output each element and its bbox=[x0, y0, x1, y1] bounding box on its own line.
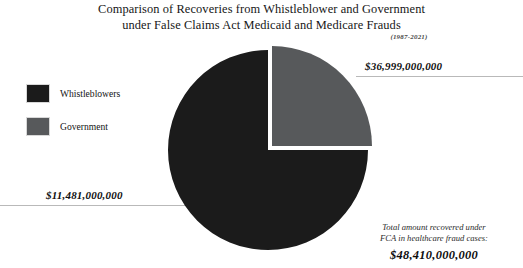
legend-swatch-government bbox=[26, 117, 50, 136]
total-recovered-value: $48,410,000,000 bbox=[348, 247, 520, 263]
total-caption-line-1: Total amount recovered under bbox=[348, 222, 520, 233]
value-label-government: $36,999,000,000 bbox=[365, 60, 442, 72]
title-line-2: under False Claims Act Medicaid and Medi… bbox=[0, 18, 523, 34]
total-recovered-annotation: Total amount recovered under FCA in heal… bbox=[348, 222, 520, 263]
chart-legend: Whistleblowers Government bbox=[26, 84, 166, 150]
chart-title: Comparison of Recoveries from Whistleblo… bbox=[0, 2, 523, 34]
title-line-1: Comparison of Recoveries from Whistleblo… bbox=[0, 2, 523, 18]
total-caption-line-2: FCA in healthcare fraud cases: bbox=[348, 233, 520, 244]
value-label-whistleblowers: $11,481,000,000 bbox=[46, 189, 123, 201]
pie-slice-government[interactable] bbox=[272, 46, 372, 146]
legend-item-government[interactable]: Government bbox=[26, 117, 166, 136]
chart-page: Comparison of Recoveries from Whistleblo… bbox=[0, 0, 523, 268]
legend-label-government: Government bbox=[60, 121, 108, 132]
legend-label-whistleblowers: Whistleblowers bbox=[60, 88, 120, 99]
legend-swatch-whistleblowers bbox=[26, 84, 50, 103]
legend-item-whistleblowers[interactable]: Whistleblowers bbox=[26, 84, 166, 103]
